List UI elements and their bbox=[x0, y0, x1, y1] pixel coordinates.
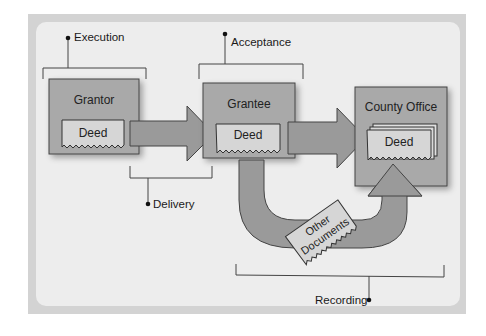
diagram-graphics bbox=[0, 0, 486, 336]
grantor-deed-label: Deed bbox=[62, 126, 124, 140]
grantee-label: Grantee bbox=[203, 97, 295, 111]
execution-bracket bbox=[43, 39, 146, 79]
execution-label: Execution bbox=[74, 31, 125, 43]
acceptance-marker-dot bbox=[223, 32, 228, 37]
grantor-label: Grantor bbox=[49, 93, 139, 107]
recording-bracket bbox=[236, 264, 444, 298]
delivery-bracket bbox=[130, 166, 212, 202]
county-office-label: County Office bbox=[355, 100, 447, 114]
delivery-marker-dot bbox=[146, 202, 151, 207]
acceptance-label: Acceptance bbox=[231, 36, 291, 48]
transfer-to-county-arrow bbox=[288, 108, 366, 168]
grantee-deed-label: Deed bbox=[216, 128, 280, 142]
delivery-label: Delivery bbox=[153, 198, 195, 210]
execution-marker-dot bbox=[66, 36, 71, 41]
county-deed-label: Deed bbox=[367, 135, 431, 149]
delivery-arrow bbox=[130, 106, 214, 161]
recording-label: Recording bbox=[315, 294, 367, 306]
